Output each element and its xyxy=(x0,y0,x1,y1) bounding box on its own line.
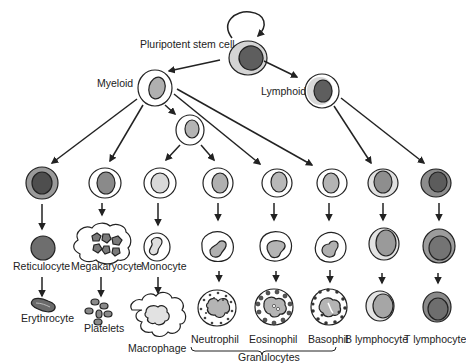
t-lymphoid-intermediate-cell xyxy=(423,229,455,263)
arrow-myeloid-to-erythroid xyxy=(52,99,137,163)
lymphoid-cell xyxy=(305,74,339,108)
platelets-label: Platelets xyxy=(84,322,124,334)
erythrocyte-cell xyxy=(31,298,55,311)
t-lymphoid-precursor-cell xyxy=(421,169,451,197)
macrophage-label: Macrophage xyxy=(128,342,187,354)
monocyte-label: Monocyte xyxy=(141,260,187,272)
erythrocyte-label: Erythrocyte xyxy=(21,312,74,324)
basophilic-precursor-cell xyxy=(317,169,347,197)
erythroid-precursor-cell xyxy=(26,167,58,199)
myeloid-label: Myeloid xyxy=(97,77,133,89)
b-lymphocyte-label: B lymphocyte xyxy=(345,333,408,345)
eosinophil-label: Eosinophil xyxy=(249,333,297,345)
basophil-band-cell xyxy=(315,232,346,262)
neutrophil-band-cell xyxy=(202,232,234,262)
arrow-stem-to-myeloid xyxy=(169,60,220,71)
reticulocyte-cell xyxy=(31,236,55,260)
reticulocyte-label: Reticulocyte xyxy=(13,260,70,272)
lymphoid-label: Lymphoid xyxy=(261,85,306,97)
megakaryocyte-label: Megakaryocyte xyxy=(71,260,142,272)
megakaryocytic-precursor-cell xyxy=(89,168,121,198)
b-lymphocyte-cell xyxy=(366,291,394,321)
arrow-lymphoid-to-t xyxy=(341,98,424,163)
macrophage-cell xyxy=(131,292,186,336)
stem-cell-label: Pluripotent stem cell xyxy=(140,38,235,50)
megakaryocyte-cell xyxy=(74,223,131,264)
self-renewal-arrow xyxy=(228,12,264,38)
arrow-myeloid-to-megakaryocytic xyxy=(110,105,143,161)
neutrophilic-precursor-cell xyxy=(203,168,233,198)
myeloid-progenitor-cell xyxy=(176,115,204,145)
eosinophilic-precursor-cell xyxy=(262,169,292,197)
monocyte-cell xyxy=(144,233,170,261)
t-lymphocyte-label: T lymphocyte xyxy=(404,333,466,345)
eosinophil-cell xyxy=(255,289,293,325)
myeloid-cell xyxy=(138,70,172,106)
arrow-progenitor-to-monocytic xyxy=(166,145,180,160)
stem-cell xyxy=(229,41,267,75)
t-lymphocyte-cell xyxy=(423,292,451,322)
arrow-progenitor-to-neutrophilic xyxy=(201,145,214,160)
b-lymphoid-intermediate-cell xyxy=(369,228,399,260)
basophil-label: Basophil xyxy=(308,333,348,345)
arrow-lymphoid-to-b xyxy=(334,106,371,163)
neutrophil-label: Neutrophil xyxy=(191,333,239,345)
b-lymphoid-precursor-cell xyxy=(368,169,398,197)
monocytic-precursor-cell xyxy=(144,168,176,198)
neutrophil-cell xyxy=(198,290,236,326)
arrow-myeloid-to-progenitor xyxy=(165,105,175,114)
granulocytes-label: Granulocytes xyxy=(238,351,300,363)
hematopoiesis-diagram: Pluripotent stem cell Myeloid Lymphoid xyxy=(0,0,466,363)
basophil-cell xyxy=(311,288,347,325)
arrow-stem-to-lymphoid xyxy=(264,61,297,77)
eosinophil-band-cell xyxy=(260,232,292,261)
